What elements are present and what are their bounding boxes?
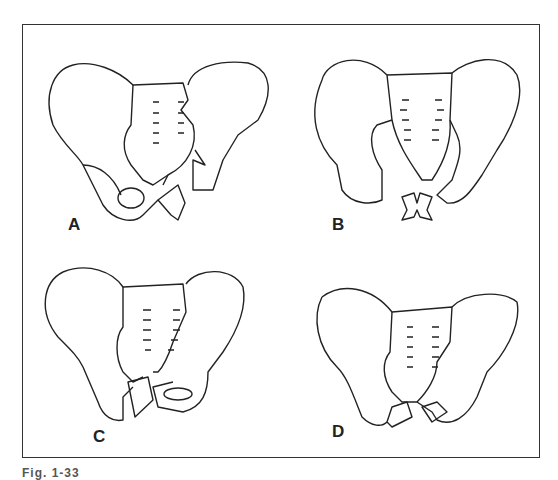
figure-frame: A B C xyxy=(22,24,540,458)
panel-label-b: B xyxy=(332,215,344,235)
panel-label-c: C xyxy=(93,427,105,447)
panel-d: D xyxy=(282,242,541,459)
panel-label-a: A xyxy=(68,215,80,235)
pelvis-drawing-a xyxy=(23,25,282,242)
panel-a: A xyxy=(23,25,282,242)
figure-caption: Fig. 1-33 xyxy=(22,466,80,480)
panel-label-d: D xyxy=(332,422,344,442)
pelvis-drawing-d xyxy=(282,242,541,459)
pelvis-drawing-b xyxy=(282,25,541,242)
panel-b: B xyxy=(282,25,541,242)
panel-c: C xyxy=(23,242,282,459)
pelvis-drawing-c xyxy=(23,242,282,459)
